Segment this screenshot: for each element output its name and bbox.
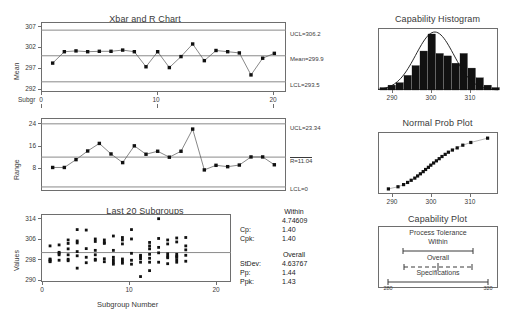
xbar-xtick-mark-20b <box>273 104 274 108</box>
xbar-lcl-label: LCL=293.5 <box>290 82 320 88</box>
histogram-xtick-290: 290 <box>384 94 400 101</box>
range-lcl-label: LCL=0 <box>290 186 308 192</box>
probplot-xtick-mark-310 <box>470 194 471 197</box>
histogram-title: Capability Histogram <box>366 14 509 24</box>
xbar-xtick-mark-10b <box>157 104 158 108</box>
within-heading: Within <box>258 208 330 215</box>
last20-xtick-mark-0 <box>42 282 43 285</box>
xbar-x-axis-label: Subgr <box>18 96 35 103</box>
xbar-center-label: Mean=299.9 <box>290 56 324 62</box>
xbar-xtick-20: 20 <box>268 96 278 103</box>
histogram-xtick-mark-310 <box>470 90 471 93</box>
xbar-plot-area <box>41 22 286 92</box>
xbar-ytick-307: 307 <box>20 23 36 30</box>
xbar-xtick-0: 0 <box>36 96 46 103</box>
last20-ytick-290: 290 <box>20 276 36 283</box>
range-center-text: R=11.04 <box>290 157 312 164</box>
last20-xtick-0: 0 <box>37 286 47 293</box>
xbar-ucl-label: UCL=306.2 <box>290 31 321 37</box>
xbar-ytick-302: 302 <box>20 43 36 50</box>
capplot-spec-low: 280 <box>379 285 397 291</box>
last20-xtick-mark-10 <box>129 282 130 285</box>
probplot-xtick-mark-290 <box>392 194 393 197</box>
xbar-y-axis-label: Mean <box>13 62 20 80</box>
range-ytick-8: 8 <box>22 164 36 171</box>
range-chart-panel: Range 24 16 8 UCL=23.34 R=11.04 LCL=0 <box>0 118 350 198</box>
within-stdev-value: 4.74609 <box>282 217 307 224</box>
xbar-chart-panel: Xbar and R Chart Mean 307 302 297 292 UC… <box>0 14 350 106</box>
histogram-plot-area <box>378 28 498 90</box>
xbar-ytick-292: 292 <box>20 85 36 92</box>
range-plot-area <box>41 118 286 191</box>
probplot-title: Normal Prob Plot <box>366 118 509 128</box>
capability-plot-title: Capability Plot <box>366 214 509 224</box>
xbar-xtick-mark-0b <box>41 104 42 108</box>
capability-plot-panel: Capability Plot Process Tolerance Within… <box>366 214 509 314</box>
histogram-xtick-mark-300 <box>431 90 432 93</box>
overall-heading: Overall <box>258 251 330 258</box>
xbar-ytick-297: 297 <box>20 64 36 71</box>
range-center-label: R=11.04 <box>290 158 312 164</box>
probplot-xtick-300: 300 <box>423 198 439 205</box>
last20-xtick-mark-20 <box>216 282 217 285</box>
histogram-xtick-mark-290 <box>392 90 393 93</box>
cpk-label: Cpk: <box>240 235 254 242</box>
probplot-xtick-290: 290 <box>384 198 400 205</box>
range-y-axis-label: Range <box>13 159 20 180</box>
probplot-xtick-mark-300 <box>431 194 432 197</box>
last20-ytick-306: 306 <box>20 235 36 242</box>
cpk-value: 1.40 <box>282 235 296 242</box>
capplot-overall-label: Overall <box>378 254 498 261</box>
capplot-process-tolerance-label: Process Tolerance <box>378 229 498 236</box>
histogram-panel: Capability Histogram 290 300 310 <box>366 14 509 109</box>
histogram-xtick-310: 310 <box>462 94 478 101</box>
stdev-value: 4.63767 <box>282 260 307 267</box>
last20-ytick-314: 314 <box>20 215 36 222</box>
xbar-xtick-10: 10 <box>151 96 161 103</box>
last20-x-axis-label: Subgroup Number <box>97 300 158 309</box>
range-ucl-label: UCL=23.34 <box>290 125 321 131</box>
last20-plot-area <box>41 214 231 282</box>
probplot-panel: Normal Prob Plot 290 300 310 <box>366 118 509 213</box>
cp-label: Cp: <box>240 226 251 233</box>
ppk-label: Ppk: <box>240 278 254 285</box>
range-ytick-16: 16 <box>22 142 36 149</box>
pp-value: 1.44 <box>282 269 296 276</box>
pp-label: Pp: <box>240 269 251 276</box>
range-ytick-24: 24 <box>22 120 36 127</box>
last20-xtick-20: 20 <box>211 286 221 293</box>
last20-y-axis-label: Values <box>13 250 20 271</box>
capplot-specifications-label: Specifications <box>378 269 498 276</box>
probplot-plot-area <box>378 132 498 194</box>
ppk-value: 1.43 <box>282 278 296 285</box>
capplot-spec-high: 320 <box>479 285 497 291</box>
statistics-panel: Within 4.74609 Cp: 1.40 Cpk: 1.40 Overal… <box>240 208 360 308</box>
stdev-label: StDev: <box>240 260 261 267</box>
last20-ytick-298: 298 <box>20 256 36 263</box>
last20-xtick-10: 10 <box>124 286 134 293</box>
probplot-xtick-310: 310 <box>462 198 478 205</box>
capplot-within-label: Within <box>378 238 498 245</box>
histogram-xtick-300: 300 <box>423 94 439 101</box>
xbar-xtick-mark-0 <box>41 92 42 95</box>
cp-value: 1.40 <box>282 226 296 233</box>
xbar-xtick-mark-10 <box>157 92 158 95</box>
xbar-xtick-mark-20 <box>273 92 274 95</box>
